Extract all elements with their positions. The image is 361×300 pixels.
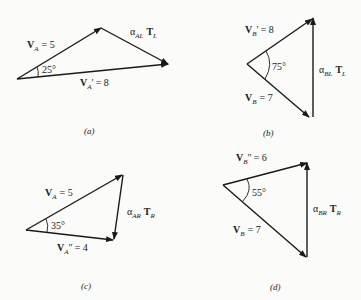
- angle-label: 25°: [42, 64, 56, 75]
- vector-vb-double-prime: [223, 163, 307, 185]
- angle-label: 75°: [272, 61, 286, 72]
- va-label: VA= 5: [45, 187, 73, 201]
- caption-a: (a): [84, 126, 95, 136]
- va-prime-label: VA′= 8: [80, 77, 109, 91]
- caption-d: (d): [270, 282, 281, 292]
- vb-double-prime-label: VB″= 6: [236, 152, 267, 166]
- alpha-ar-label: αARTR: [127, 206, 155, 220]
- diagram-b: 75° VB′= 8 VB= 7 αBLTL (b): [245, 18, 346, 138]
- alpha-br-label: αBRTR: [313, 203, 341, 217]
- va-double-prime-label: VA″= 4: [57, 242, 88, 256]
- vb-prime-label: VB′= 8: [245, 24, 274, 38]
- vector-va-double-prime: [26, 230, 113, 240]
- vb-label: VB= 7: [245, 92, 273, 106]
- angle-arc: [46, 219, 48, 232]
- angle-arc: [243, 179, 249, 201]
- diagram-c: 35° VA= 5 VA″= 4 αARTR (c): [26, 175, 155, 291]
- angle-label: 55°: [252, 187, 266, 198]
- angle-arc: [37, 67, 38, 77]
- angle-arc: [265, 51, 270, 79]
- caption-b: (b): [263, 128, 274, 138]
- vector-va: [26, 175, 122, 230]
- diagram-d: 55° VB″= 6 VB= 7 αBRTR (d): [223, 152, 341, 292]
- alpha-al-label: αALTL: [130, 26, 157, 40]
- vb-label: VB= 7: [233, 224, 261, 238]
- vector-alpha-ar: [114, 175, 123, 239]
- va-label: VA= 5: [27, 39, 55, 53]
- diagram-a: 25° VA= 5 VA′= 8 αALTL (a): [17, 26, 168, 136]
- angle-label: 35°: [51, 220, 65, 231]
- caption-c: (c): [81, 281, 91, 291]
- alpha-bl-label: αBLTL: [319, 64, 346, 78]
- vector-diagrams: 25° VA= 5 VA′= 8 αALTL (a) 75° VB′= 8 VB…: [0, 0, 361, 300]
